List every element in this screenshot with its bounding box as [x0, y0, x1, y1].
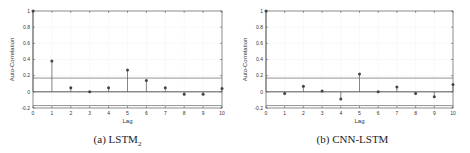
caption-cnn-lstm: (b) CNN-LSTM [235, 133, 470, 148]
stem-marker [283, 92, 286, 95]
stem-marker [32, 10, 35, 13]
y-tick-label: 0.8 [256, 24, 263, 30]
x-tick-label: 9 [433, 110, 436, 116]
acf-plot-cnn-lstm: -0.200.20.40.60.81012345678910LagAuto-Co… [235, 0, 470, 130]
caption-text: (a) LSTM [94, 133, 138, 145]
stem-marker [50, 60, 53, 63]
x-tick-label: 1 [283, 110, 286, 116]
x-tick-label: 4 [107, 110, 110, 116]
y-tick-label: -0.2 [254, 105, 263, 111]
stem-marker [395, 85, 398, 88]
stem-marker [358, 73, 361, 76]
y-tick-label: 0.6 [23, 40, 30, 46]
y-tick-label: 0 [260, 89, 263, 95]
stem-marker [433, 95, 436, 98]
y-tick-label: 0.2 [23, 72, 30, 78]
x-tick-label: 6 [145, 110, 148, 116]
stem-marker [265, 10, 268, 13]
y-tick-label: 1 [260, 8, 263, 14]
x-tick-label: 10 [219, 110, 225, 116]
stem-marker [221, 87, 224, 90]
stem-marker [377, 90, 380, 93]
stem-marker [452, 83, 455, 86]
x-tick-label: 5 [126, 110, 129, 116]
stem-marker [145, 79, 148, 82]
caption-subscript: 2 [138, 140, 142, 148]
stem-marker [202, 93, 205, 96]
y-tick-label: -0.2 [21, 105, 30, 111]
x-tick-label: 7 [164, 110, 167, 116]
x-tick-label: 8 [414, 110, 417, 116]
stem-marker [69, 86, 72, 89]
x-tick-label: 4 [339, 110, 342, 116]
x-axis-label: Lag [122, 118, 132, 124]
y-tick-label: 1 [27, 8, 30, 14]
x-tick-label: 0 [265, 110, 268, 116]
x-tick-label: 10 [450, 110, 456, 116]
stem-marker [88, 90, 91, 93]
y-tick-label: 0.4 [23, 56, 30, 62]
stem-marker [339, 98, 342, 101]
stem-marker [321, 90, 324, 93]
stem-marker [126, 69, 129, 72]
caption-text: (b) CNN-LSTM [317, 133, 389, 145]
stem-marker [107, 86, 110, 89]
y-axis-label: Auto-Correlation [242, 38, 248, 82]
x-tick-label: 3 [88, 110, 91, 116]
y-tick-label: 0.4 [256, 56, 263, 62]
stem-marker [183, 93, 186, 96]
y-tick-label: 0.6 [256, 40, 263, 46]
x-tick-label: 1 [51, 110, 54, 116]
x-tick-label: 2 [69, 110, 72, 116]
x-tick-label: 0 [32, 110, 35, 116]
y-tick-label: 0 [27, 89, 30, 95]
x-tick-label: 8 [183, 110, 186, 116]
x-tick-label: 3 [321, 110, 324, 116]
acf-plot-lstm2: -0.200.20.40.60.81012345678910LagAuto-Co… [0, 0, 235, 130]
chart-panel-cnn-lstm: -0.200.20.40.60.81012345678910LagAuto-Co… [235, 0, 470, 153]
caption-lstm2: (a) LSTM2 [0, 133, 235, 148]
x-tick-label: 6 [377, 110, 380, 116]
y-axis-label: Auto-Correlation [9, 38, 15, 82]
y-tick-label: 0.2 [256, 72, 263, 78]
chart-panel-lstm2: -0.200.20.40.60.81012345678910LagAuto-Co… [0, 0, 235, 153]
stem-marker [414, 92, 417, 95]
x-tick-label: 9 [202, 110, 205, 116]
stem-marker [164, 86, 167, 89]
x-tick-label: 7 [396, 110, 399, 116]
x-axis-label: Lag [354, 118, 364, 124]
x-tick-label: 5 [358, 110, 361, 116]
stem-marker [302, 85, 305, 88]
x-tick-label: 2 [302, 110, 305, 116]
y-tick-label: 0.8 [23, 24, 30, 30]
